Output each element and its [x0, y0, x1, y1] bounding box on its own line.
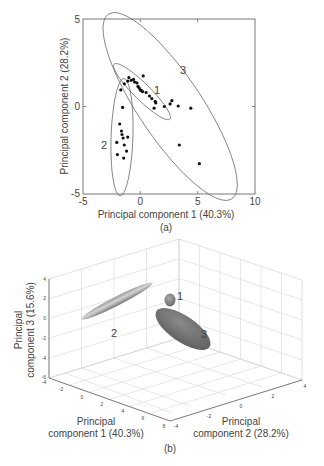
data-point: [150, 97, 153, 100]
data-point: [169, 102, 172, 105]
data-point: [153, 107, 156, 110]
cluster-label-2: 2: [101, 139, 107, 151]
ytick3d: -4: [174, 423, 179, 429]
cluster-label-1: 1: [154, 84, 160, 96]
caption-b: (b): [164, 443, 176, 454]
panel-a: -5 0 5 10 5 0 -5 Principal component 1 (…: [59, 13, 261, 233]
ztick: 4: [43, 276, 46, 282]
y-axis-label-3d-line2: component 2 (28.2%): [193, 428, 289, 439]
ellipsoid-label-3: 3: [201, 328, 207, 340]
ytick-label: 5: [74, 14, 80, 25]
data-point: [154, 101, 157, 104]
data-point: [189, 107, 192, 110]
xtick3d: -2: [59, 386, 64, 392]
data-point: [115, 141, 118, 144]
data-point: [119, 88, 122, 91]
xtick3d: -4: [42, 379, 47, 385]
ytick3d: 4: [304, 383, 307, 389]
xtick3d: 4: [122, 408, 125, 414]
data-point: [178, 143, 181, 146]
ellipsoid-2: [79, 279, 154, 323]
data-point: [141, 90, 144, 93]
xtick3d: 8: [163, 423, 166, 429]
data-point: [121, 106, 124, 109]
z-axis-label-3d: Principal component 3 (15.6%): [13, 282, 36, 378]
ztick: 0: [43, 315, 46, 321]
ytick3d: 2: [272, 393, 275, 399]
z-tick-labels: 4 2 0 -2 -4 -6: [42, 276, 47, 380]
panel-b: 1 2 3 4 2 0 -2 -4 -6 -4 -2 0 2 4 6 8 -4 …: [13, 239, 307, 454]
z-axis-label-line1: Principal: [13, 311, 24, 349]
data-point: [122, 136, 125, 139]
x-axis-label-a: Principal component 1 (40.3%): [98, 209, 235, 220]
x-axis-label-3d-line1: Principal: [77, 416, 115, 427]
z-axis-label-line2: component 3 (15.6%): [25, 282, 36, 378]
data-point: [142, 74, 145, 77]
data-point: [123, 143, 126, 146]
xtick-label: 0: [138, 196, 144, 207]
data-point: [126, 80, 129, 83]
figure: -5 0 5 10 5 0 -5 Principal component 1 (…: [0, 0, 324, 466]
data-point: [145, 91, 148, 94]
ztick: 2: [43, 295, 46, 301]
data-point: [148, 94, 151, 97]
data-point: [170, 99, 173, 102]
ytick-label: 0: [74, 101, 80, 112]
data-point: [118, 122, 121, 125]
xtick3d: 6: [142, 415, 145, 421]
data-point: [123, 82, 126, 85]
ztick: -4: [42, 355, 47, 361]
ellipsoid-label-2: 2: [111, 327, 117, 339]
data-point: [177, 104, 180, 107]
data-point: [116, 153, 119, 156]
xtick-label: 5: [195, 196, 201, 207]
y-axis-label-a: Principal component 2 (28.2%): [59, 38, 70, 175]
data-point: [120, 129, 123, 132]
caption-a: (a): [160, 222, 172, 233]
data-point: [163, 105, 166, 108]
y-axis-label-3d-line1: Principal: [222, 416, 260, 427]
ellipsoid-label-1: 1: [177, 290, 183, 302]
ztick: -2: [42, 335, 47, 341]
plot-frame-a: [83, 19, 255, 194]
axes-3d: [49, 279, 302, 421]
ytick3d: -2: [207, 413, 212, 419]
ytick-label: -5: [71, 188, 80, 199]
data-point: [135, 81, 138, 84]
data-point: [127, 76, 130, 79]
data-point: [126, 136, 129, 139]
xtick3d: 0: [81, 394, 84, 400]
data-point: [198, 162, 201, 165]
data-point: [120, 133, 123, 136]
data-point: [122, 157, 125, 160]
ellipsoid-1: [165, 294, 176, 307]
xtick3d: 2: [101, 401, 104, 407]
cluster-label-3: 3: [180, 64, 186, 76]
xtick-label: 10: [249, 196, 261, 207]
data-point: [125, 150, 128, 153]
x-axis-label-3d-line2: component 1 (40.3%): [48, 428, 144, 439]
ytick3d: 0: [240, 403, 243, 409]
